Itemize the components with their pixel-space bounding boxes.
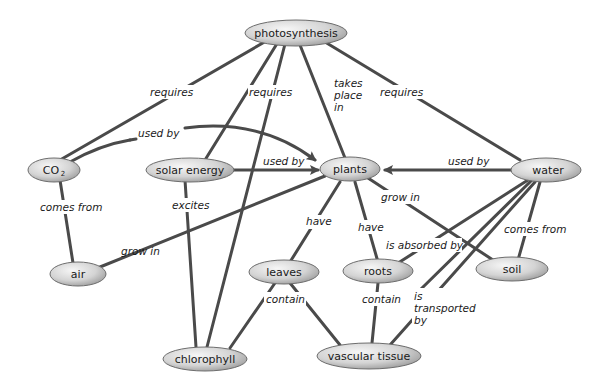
label-leaves-contain: contain — [266, 293, 305, 305]
edge-co2-air — [60, 180, 73, 263]
node-roots[interactable]: roots — [343, 259, 413, 283]
label-photosynthesis-plants-2: place — [333, 89, 362, 101]
node-co2-subscript: 2 — [61, 170, 65, 178]
node-roots-label: roots — [364, 265, 392, 278]
label-photosynthesis-solar: requires — [249, 86, 293, 98]
node-vascular-tissue[interactable]: vascular tissue — [317, 343, 421, 369]
node-leaves-label: leaves — [266, 266, 302, 279]
node-solar-energy[interactable]: solar energy — [146, 158, 234, 182]
node-photosynthesis-label: photosynthesis — [254, 27, 338, 40]
label-roots-contain: contain — [362, 293, 401, 305]
node-soil[interactable]: soil — [476, 257, 548, 281]
node-co2-label: CO — [43, 164, 60, 177]
node-plants-label: plants — [333, 163, 367, 176]
node-co2[interactable]: CO 2 — [28, 158, 80, 182]
label-water-vascular-1: is — [414, 290, 423, 302]
edge-labels: requires requires takes place in require… — [38, 76, 566, 328]
concept-map: requires requires takes place in require… — [0, 0, 609, 392]
node-chlorophyll[interactable]: chlorophyll — [163, 347, 247, 371]
label-solar-plants: used by — [263, 155, 305, 167]
label-photosynthesis-co2: requires — [150, 86, 194, 98]
label-plants-leaves: have — [306, 215, 332, 227]
label-water-soil: comes from — [504, 223, 566, 235]
edge-water-soil — [518, 182, 540, 260]
label-water-plants: used by — [448, 155, 490, 167]
node-plants[interactable]: plants — [320, 157, 380, 181]
label-photosynthesis-water: requires — [380, 86, 424, 98]
label-plants-air: grow in — [121, 245, 160, 257]
label-co2-plants: used by — [138, 127, 180, 139]
node-water-label: water — [532, 164, 564, 177]
label-water-vascular-2: transported — [414, 302, 476, 314]
node-chlorophyll-label: chlorophyll — [175, 353, 235, 366]
node-leaves[interactable]: leaves — [249, 260, 319, 284]
node-air[interactable]: air — [50, 262, 106, 286]
label-plants-roots: have — [358, 221, 384, 233]
label-photosynthesis-plants-1: takes — [334, 77, 363, 89]
node-water[interactable]: water — [511, 158, 581, 182]
edge-photosynthesis-solar-energy — [205, 42, 278, 160]
node-photosynthesis[interactable]: photosynthesis — [245, 20, 347, 46]
label-photosynthesis-plants-3: in — [334, 101, 344, 113]
label-solar-chlorophyll: excites — [172, 199, 210, 211]
label-co2-air: comes from — [40, 201, 102, 213]
label-water-roots: is absorbed by — [386, 239, 464, 251]
node-air-label: air — [71, 268, 86, 281]
node-vascular-tissue-label: vascular tissue — [328, 350, 411, 363]
edge-co2-plants-start — [130, 139, 136, 140]
node-soil-label: soil — [503, 263, 522, 276]
edge-photosynthesis-co2 — [60, 40, 268, 160]
label-water-vascular-3: by — [414, 314, 428, 326]
node-solar-energy-label: solar energy — [156, 164, 225, 177]
label-plants-soil: grow in — [381, 191, 420, 203]
